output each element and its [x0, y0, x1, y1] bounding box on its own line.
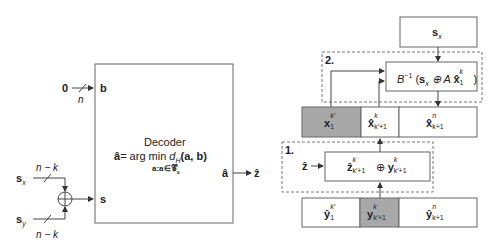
output-zhat-label: ẑ: [254, 168, 260, 179]
decoder-equation: â= arg min dH(a, b): [114, 151, 207, 164]
x3-sub: k+1: [432, 123, 443, 130]
x3-sup: n: [432, 112, 436, 119]
sy-input-label: sy: [16, 214, 26, 227]
x1-sup: k′: [330, 112, 335, 119]
x2-sub: k′+1: [374, 123, 387, 130]
input-b-width-label: n: [78, 95, 84, 105]
x-cell-1-label: xk′1: [324, 117, 344, 129]
diagram-canvas: [0, 0, 496, 249]
eq-rhs: = arg min: [120, 150, 169, 162]
f1-z-sub: k′+1: [353, 167, 366, 174]
y1-sub: 1: [330, 214, 334, 221]
step2-number: 2.: [325, 55, 334, 66]
f2-op: ⊕ A: [429, 73, 454, 85]
step1-number: 1.: [285, 145, 294, 156]
constraint-text: a:a∈𝒞: [152, 164, 177, 173]
constraint-sub: s: [177, 169, 180, 175]
f1-y-sup: k: [394, 156, 398, 163]
decoder-title: Decoder: [144, 137, 186, 148]
sx-line: [33, 178, 65, 191]
sx-box-sub: x: [438, 33, 442, 40]
decoder-constraint: a:a∈𝒞s: [152, 165, 180, 175]
y3-sup: n: [432, 203, 436, 210]
x-cell-3-label: x̂nk+1: [426, 117, 452, 129]
eq-args: (a, b): [181, 150, 207, 162]
x1-sub: 1: [330, 123, 334, 130]
f1-y-sub: k′+1: [394, 167, 407, 174]
f2-x-sub: 1: [460, 79, 464, 86]
output-port-label: â: [222, 168, 228, 179]
step1-input-zhat: ẑ: [302, 161, 308, 172]
sx-width-label: n − k: [36, 163, 58, 173]
xk-feedback-line: [379, 81, 384, 107]
sy-sub: y: [22, 220, 26, 227]
y3-sub: k+1: [432, 214, 443, 221]
port-b-label: b: [100, 83, 107, 94]
y1-sup: k′: [330, 203, 335, 210]
y-cell-3-label: ŷnk+1: [426, 208, 452, 220]
y2-sub: k′+1: [373, 214, 386, 221]
y-cell-2-label: ykk′+1: [367, 208, 393, 220]
f1-z-sup: k: [353, 156, 357, 163]
sx-box-label: sx: [432, 27, 442, 40]
input-zero-label: 0: [62, 83, 68, 94]
y2-sup: k: [373, 203, 377, 210]
y-cell-1-label: ŷk′1: [324, 208, 344, 220]
sx-sub: x: [22, 179, 26, 186]
sx-input-label: sx: [16, 173, 26, 186]
f2-x-sup: k: [460, 68, 464, 75]
xor-icon: [58, 192, 72, 206]
sy-width-label: n − k: [36, 230, 58, 240]
zy-formula: ẑkk′+1 ⊕ ykk′+1: [347, 161, 414, 173]
port-s-label: s: [100, 194, 106, 205]
f2-close: ): [474, 73, 478, 85]
binv-formula: B−1 (sx ⊕ A x̂k1): [397, 72, 477, 87]
x2-sup: k: [374, 112, 378, 119]
x-cell-2-label: x̂kk′+1: [368, 117, 394, 129]
f1-op: ⊕: [373, 161, 388, 173]
